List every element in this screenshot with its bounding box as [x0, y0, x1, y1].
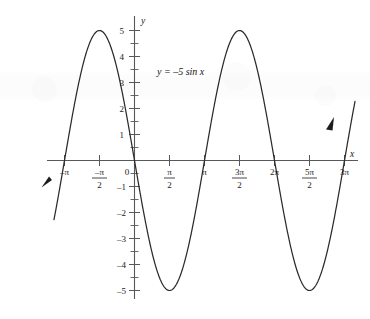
- fraction-denominator: 2: [97, 180, 102, 190]
- fraction-numerator: 3π: [235, 167, 245, 177]
- fraction-denominator: 2: [307, 180, 312, 190]
- x-tick-label-pi: π: [202, 167, 207, 177]
- y-axis-label: y: [140, 16, 146, 26]
- x-tick-label-3pi-over-2: 3π 2: [232, 167, 247, 190]
- curve-right-arrowhead: [326, 117, 334, 131]
- fraction-numerator: π: [167, 167, 172, 177]
- fraction-denominator: 2: [237, 180, 242, 190]
- curve-left-arrowhead: [42, 177, 53, 188]
- x-tick-label-5pi-over-2: 5π 2: [302, 167, 317, 190]
- y-tick-label-3: 3: [120, 78, 125, 88]
- y-tick-label-minus-2: –2: [116, 208, 126, 218]
- y-tick-label-minus-1: –1: [116, 182, 126, 192]
- x-tick-label-zero: 0: [125, 167, 130, 177]
- x-tick-label-3pi: 3π: [340, 167, 350, 177]
- plot-canvas: ignore x y y = –5 sin x –π 0 π 2π 3π –π …: [0, 0, 370, 319]
- fraction-numerator: –π: [94, 167, 105, 177]
- y-tick-label-4: 4: [120, 52, 125, 62]
- y-tick-label-2: 2: [120, 104, 125, 114]
- y-tick-label-1: 1: [120, 130, 125, 140]
- y-tick-label-minus-5: –5: [116, 286, 127, 296]
- x-tick-label-minus-pi-over-2: –π 2: [92, 167, 107, 190]
- equation-annotation: y = –5 sin x: [156, 66, 205, 77]
- x-tick-label-pi-over-2: π 2: [164, 167, 175, 190]
- y-tick-label-5: 5: [120, 26, 125, 36]
- fraction-numerator: 5π: [305, 167, 315, 177]
- y-tick-label-minus-3: –3: [116, 234, 127, 244]
- y-tick-label-minus-4: –4: [116, 260, 127, 270]
- function-graph-figure: ignore x y y = –5 sin x –π 0 π 2π 3π –π …: [0, 0, 370, 319]
- x-axis-label: x: [349, 149, 355, 159]
- fraction-denominator: 2: [167, 180, 172, 190]
- x-tick-label-minus-pi: –π: [59, 167, 70, 177]
- x-tick-label-2pi: 2π: [270, 167, 280, 177]
